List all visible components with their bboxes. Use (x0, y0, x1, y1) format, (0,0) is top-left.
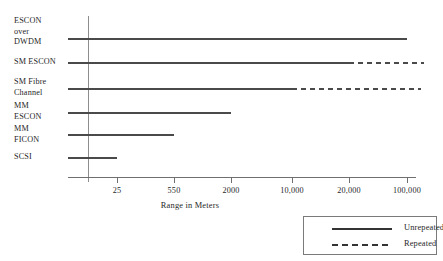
bar-scsi-unrepeated (68, 157, 117, 159)
x-tick-label-2000: 2000 (211, 186, 251, 195)
legend-label-repeated: Repeated (404, 239, 436, 248)
x-tick-label-100000: 100,000 (383, 186, 431, 195)
x-tick-20000 (349, 178, 350, 183)
bar-sm-fibre-channel-unrepeated (68, 88, 292, 90)
bar-mm-escon-unrepeated (68, 112, 231, 114)
x-tick-10000 (292, 178, 293, 183)
bar-sm-fibre-channel-repeated (292, 88, 421, 90)
legend-label-unrepeated: Unrepeated (404, 223, 443, 232)
bar-mm-ficon-unrepeated (68, 134, 174, 136)
legend: Unrepeated Repeated (303, 216, 437, 255)
x-tick-100000 (407, 178, 408, 183)
x-tick-label-20000: 20,000 (327, 186, 371, 195)
bar-sm-escon-unrepeated (68, 62, 349, 64)
x-tick-2000 (231, 178, 232, 183)
legend-swatch-repeated-line (332, 244, 392, 246)
x-tick-label-25: 25 (97, 186, 137, 195)
bar-sm-escon-repeated (349, 62, 424, 64)
x-axis-title: Range in Meters (130, 201, 250, 210)
x-tick-550 (174, 178, 175, 183)
x-tick-label-550: 550 (154, 186, 194, 195)
chart-container: ESCON over DWDM SM ESCON SM Fibre Channe… (0, 0, 443, 261)
x-tick-25 (117, 178, 118, 183)
x-axis-line (68, 177, 416, 178)
bar-escon-over-dwdm-unrepeated (68, 38, 407, 40)
x-tick-label-10000: 10,000 (270, 186, 314, 195)
legend-swatch-unrepeated-line (332, 228, 392, 230)
